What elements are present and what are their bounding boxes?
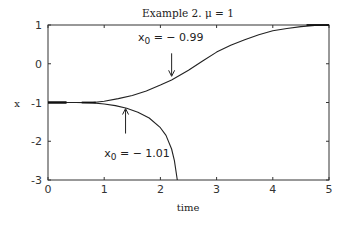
x-axis-label: time xyxy=(177,202,200,213)
annotation-label: x0 = − 0.99 xyxy=(138,31,204,46)
y-tick-label: -1 xyxy=(31,97,42,110)
series-group xyxy=(48,25,329,180)
y-tick-label: 0 xyxy=(35,58,42,71)
y-tick-label: 1 xyxy=(35,19,42,32)
x-tick-label: 2 xyxy=(157,183,164,196)
chart-title: Example 2. μ = 1 xyxy=(142,7,234,19)
annotations: x0 = − 0.99x0 = − 1.01 xyxy=(104,31,203,162)
y-tick-label: -2 xyxy=(31,135,42,148)
x-tick-label: 1 xyxy=(101,183,108,196)
x-tick-label: 4 xyxy=(269,183,276,196)
annotation-label: x0 = − 1.01 xyxy=(104,147,170,162)
x-axis: 012345 xyxy=(45,25,333,196)
y-tick-label: -3 xyxy=(31,174,42,187)
x-tick-label: 5 xyxy=(326,183,333,196)
x-tick-label: 0 xyxy=(45,183,52,196)
chart: Example 2. μ = 1 012345 10-1-2-3 time x … xyxy=(0,0,345,226)
series-line-1 xyxy=(48,103,177,181)
y-axis-label: x xyxy=(14,98,20,109)
x-tick-label: 3 xyxy=(213,183,220,196)
